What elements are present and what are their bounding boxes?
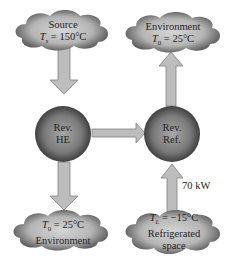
source-label: Source Ts = 150°C: [28, 19, 98, 47]
rev-he-line2: HE: [43, 134, 83, 146]
env-bottom-temp: T0 = 25°C: [26, 219, 100, 235]
env-top-label: Environment T0 = 25°C: [136, 21, 210, 49]
rev-he-line1: Rev.: [43, 122, 83, 134]
refrig-line1: Refrigerated: [134, 228, 214, 240]
arrow-space-to-ref: [161, 164, 183, 212]
source-title: Source: [28, 19, 98, 31]
arrow-he-to-ref: [92, 123, 145, 143]
refrig-temp: TL = −15°C: [134, 212, 214, 228]
env-bottom-label: T0 = 25°C Environment: [26, 219, 100, 247]
arrow-source-to-he: [50, 48, 78, 94]
rev-ref-line1: Rev.: [152, 122, 192, 134]
env-bottom-title: Environment: [26, 235, 100, 247]
rev-he-label: Rev. HE: [43, 122, 83, 146]
refrig-space-label: TL = −15°C Refrigerated space: [134, 212, 214, 252]
refrig-line2: space: [134, 240, 214, 252]
arrow-ref-to-env: [159, 52, 183, 106]
env-top-title: Environment: [136, 21, 210, 33]
cooling-load-label: 70 kW: [182, 180, 210, 192]
rev-ref-line2: Ref.: [152, 134, 192, 146]
env-top-temp: T0 = 25°C: [136, 33, 210, 49]
source-temp: Ts = 150°C: [28, 31, 98, 47]
diagram: Source Ts = 150°C Environment T0 = 25°C …: [0, 0, 232, 262]
arrow-he-to-env: [50, 162, 78, 210]
rev-ref-label: Rev. Ref.: [152, 122, 192, 146]
